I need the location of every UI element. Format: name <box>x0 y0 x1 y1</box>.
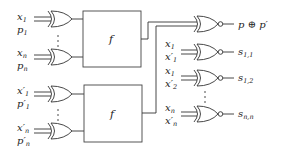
label-pn: pn <box>17 60 28 73</box>
top-input-gate-n: xn pn <box>17 47 83 73</box>
xnor-gate-icon <box>194 106 223 122</box>
bottom-function-box: f <box>84 85 142 142</box>
label-xn: xn <box>17 47 27 60</box>
bottom-input-gate-1: x′1 p′1 <box>17 85 84 111</box>
bottom-input-gate-n: x′n p′n <box>17 122 84 148</box>
label-x1: x1 <box>17 11 27 24</box>
label-pn-prime: p′n <box>17 135 30 148</box>
output-gate-s11: x1 x′1 s1,1 <box>165 38 253 64</box>
output-gate-p-xor-pprime: p ⊕ p′ <box>194 16 269 32</box>
label-x1-prime: x′1 <box>165 51 177 64</box>
label-snn: sn,n <box>238 108 254 121</box>
top-function-box: f <box>83 11 141 67</box>
label-xn: xn <box>165 102 175 115</box>
bottom-ellipsis <box>57 109 59 121</box>
label-xn-prime: x′n <box>165 115 177 128</box>
top-ellipsis <box>57 35 59 47</box>
circuit-diagram: x1 p1 xn pn f x′1 p′1 x′n p′n <box>0 0 283 154</box>
label-s11: s1,1 <box>238 46 253 59</box>
xnor-gate-icon <box>194 44 223 60</box>
output-gate-snn: xn x′n sn,n <box>165 102 254 128</box>
label-xn-prime: x′n <box>17 122 29 135</box>
label-p-xor-pprime: p ⊕ p′ <box>238 19 269 30</box>
output-gate-s12: x1 x′2 s1,2 <box>165 65 253 91</box>
label-p1-prime: p′1 <box>17 98 30 111</box>
label-x1: x1 <box>165 65 175 78</box>
label-s12: s1,2 <box>238 72 253 85</box>
xnor-gate-icon <box>194 16 223 32</box>
xor-gate-icon <box>48 11 72 27</box>
top-input-gate-1: x1 p1 <box>17 11 83 37</box>
xor-gate-icon <box>48 49 72 65</box>
label-x1-prime: x′1 <box>17 85 29 98</box>
label-x1: x1 <box>165 38 175 51</box>
label-x2-prime: x′2 <box>165 78 177 91</box>
xnor-gate-icon <box>194 70 223 86</box>
right-ellipsis <box>204 91 206 103</box>
label-p1: p1 <box>17 24 28 37</box>
xor-gate-icon <box>48 123 72 139</box>
xor-gate-icon <box>48 86 72 102</box>
